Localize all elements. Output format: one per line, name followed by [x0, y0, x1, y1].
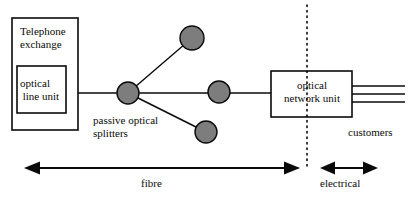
splitter-node-bottom	[195, 121, 217, 143]
splitter-node-main	[117, 82, 139, 104]
telephone-exchange-label: Telephone exchange	[20, 25, 66, 50]
electrical-span-arrow	[320, 162, 378, 175]
optical-line-unit-label: optical line unit	[20, 77, 59, 102]
fibre-span-arrow	[24, 162, 300, 175]
splitter-node-middle	[208, 81, 230, 103]
customers-label: customers	[348, 126, 393, 139]
fibre-span-label: fibre	[141, 177, 162, 190]
splitter-node-top	[180, 26, 204, 50]
optical-network-unit-label: optical network unit	[279, 79, 345, 104]
passive-optical-splitters-label: passive optical splitters	[93, 114, 158, 139]
electrical-span-label: electrical	[320, 177, 360, 190]
pon-architecture-diagram: Telephone exchange optical line unit pas…	[0, 0, 413, 205]
